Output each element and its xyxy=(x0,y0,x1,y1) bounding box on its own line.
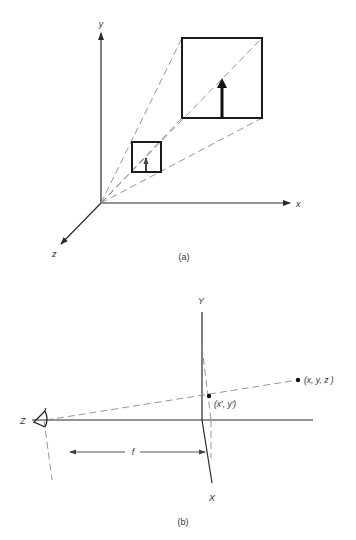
x-axis-label: x xyxy=(295,199,301,209)
point-3d-label: (x, y, z ) xyxy=(304,375,334,385)
X-axis-label: X xyxy=(208,493,216,503)
z-axis xyxy=(61,203,101,244)
focal-arrow-left-icon xyxy=(69,450,76,455)
z-axis-label: z xyxy=(51,249,57,259)
Y-axis-label: Y xyxy=(198,296,205,306)
point-image xyxy=(207,394,211,398)
focal-length-label: f xyxy=(132,447,136,457)
figure-a: y x z (a) xyxy=(51,19,301,262)
projection-ray xyxy=(46,380,298,420)
y-axis-label: y xyxy=(98,19,104,29)
focal-arrow-right-icon xyxy=(199,450,206,455)
perspective-projection-figure: y x z (a) f Y xyxy=(0,0,356,540)
caption-a: (a) xyxy=(179,252,190,262)
figure-b: f Y X Z (x, y, z ) (x′, y′) (b) xyxy=(19,296,334,527)
eye-icon xyxy=(34,408,47,427)
eye-plane-dashed xyxy=(44,420,52,480)
image-plane-dashed-upper xyxy=(202,347,211,420)
point-3d xyxy=(296,378,300,382)
Z-axis-label: Z xyxy=(19,416,26,426)
caption-b: (b) xyxy=(178,517,189,527)
point-image-label: (x′, y′) xyxy=(214,399,236,409)
